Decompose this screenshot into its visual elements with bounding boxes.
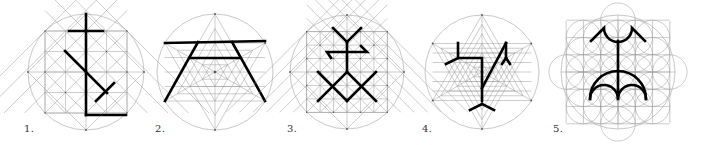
figure-3-label: 3. [287, 123, 298, 134]
diagram-canvas [0, 0, 710, 145]
figure-5-circle-lattice-sigil [549, 3, 687, 141]
figure-5-label: 5. [553, 123, 564, 134]
glyph-1 [65, 14, 126, 115]
figure-2-hexagram-sigil [157, 13, 273, 131]
figure-4-star-grid-sigil [425, 14, 539, 130]
figure-3-square-grid-sigil [226, 0, 468, 130]
figure-2-label: 2. [155, 123, 166, 134]
figure-plate: 1. 2. 3. 4. 5. [0, 0, 710, 145]
figure-1-label: 1. [24, 123, 35, 134]
figure-4-label: 4. [422, 123, 433, 134]
